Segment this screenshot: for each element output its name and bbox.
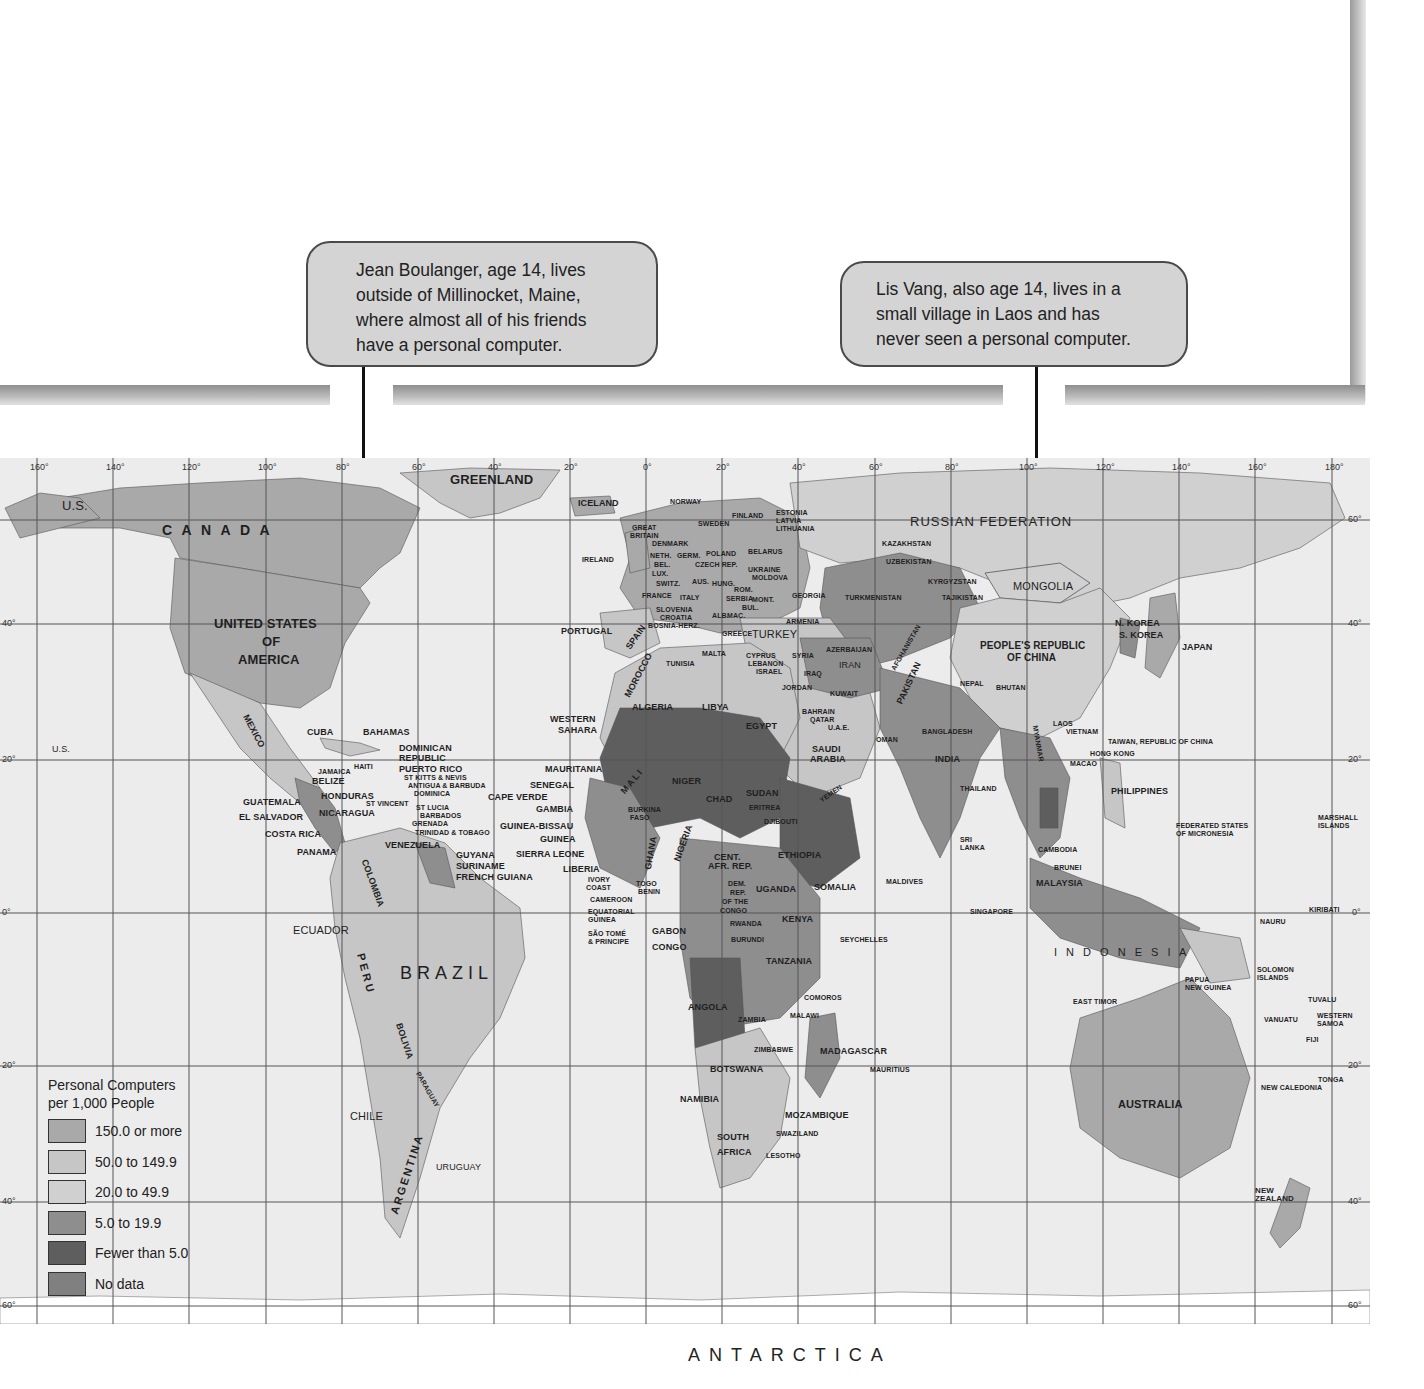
legend-label: 20.0 to 49.9	[95, 1184, 169, 1200]
label-kyrgyzstan: KYRGYZSTAN	[928, 578, 977, 585]
label-cyprus: CYPRUS	[746, 652, 776, 659]
label-cuba: CUBA	[307, 727, 333, 737]
label-eritrea: ERITREA	[749, 804, 780, 811]
label-micronesia-2: OF MICRONESIA	[1176, 830, 1234, 837]
longitude-label: 100°	[258, 462, 277, 472]
label-ecuador: ECUADOR	[293, 924, 349, 936]
label-hung: HUNG.	[712, 580, 735, 587]
label-iran: IRAN	[839, 660, 861, 670]
label-seychelles: SEYCHELLES	[840, 936, 888, 943]
label-ivory-1: IVORY	[588, 876, 610, 883]
longitude-label: 60°	[869, 462, 883, 472]
label-gabon: GABON	[652, 926, 686, 936]
latitude-label: 20°	[1348, 1060, 1362, 1070]
label-lesotho: LESOTHO	[766, 1152, 801, 1159]
label-suriname: SURINAME	[456, 861, 505, 871]
label-usa-line2: OF	[262, 634, 280, 649]
label-eq-guinea-1: EQUATORIAL	[588, 908, 635, 915]
label-hong-kong: HONG KONG	[1090, 750, 1135, 757]
label-south-africa-2: AFRICA	[717, 1147, 752, 1157]
label-chad: CHAD	[706, 794, 732, 804]
label-georgia: GEORGIA	[792, 592, 826, 599]
label-tuvalu: TUVALU	[1308, 996, 1336, 1003]
label-senegal: SENEGAL	[530, 780, 574, 790]
label-uruguay: URUGUAY	[436, 1162, 481, 1172]
label-sierra-leone: SIERRA LEONE	[516, 849, 584, 859]
longitude-label: 100°	[1019, 462, 1038, 472]
label-singapore: SINGAPORE	[970, 908, 1013, 915]
label-tajikistan: TAJIKISTAN	[942, 594, 983, 601]
label-png-1: PAPUA	[1185, 976, 1209, 983]
label-cameroon: CAMEROON	[590, 896, 632, 903]
label-st-kitts: ST KITTS & NEVIS	[404, 774, 467, 781]
longitude-label: 140°	[106, 462, 125, 472]
label-cambodia: CAMBODIA	[1038, 846, 1077, 853]
callout-line: have a personal computer.	[356, 333, 640, 358]
label-oman: OMAN	[876, 736, 898, 743]
longitude-label: 180°	[1325, 462, 1344, 472]
label-egypt: EGYPT	[746, 721, 777, 731]
label-france: FRANCE	[642, 592, 672, 599]
label-vietnam: VIETNAM	[1066, 728, 1098, 735]
label-nz-2: ZEALAND	[1255, 1194, 1294, 1203]
label-bahamas: BAHAMAS	[363, 727, 410, 737]
label-gambia: GAMBIA	[536, 804, 573, 814]
label-armenia: ARMENIA	[786, 618, 819, 625]
label-comoros: COMOROS	[804, 994, 842, 1001]
label-n-korea: N. KOREA	[1115, 618, 1160, 628]
label-malta: MALTA	[702, 650, 726, 657]
label-eq-guinea-2: GUINEA	[588, 916, 616, 923]
label-guinea: GUINEA	[540, 834, 576, 844]
latitude-label: 20°	[1348, 754, 1362, 764]
latitude-label: 0°	[2, 907, 11, 917]
region-cambodia	[1040, 788, 1058, 828]
label-libya: LIBYA	[702, 702, 729, 712]
label-bosnia: BOSNIA-HERZ.	[648, 622, 700, 629]
panel-frame-bottom-left	[0, 385, 330, 405]
label-finland: FINLAND	[732, 512, 763, 519]
callout-line: small village in Laos and has	[876, 302, 1170, 327]
label-grenada: GRENADA	[412, 820, 448, 827]
label-italy: ITALY	[680, 594, 700, 601]
label-angola: ANGOLA	[688, 1002, 728, 1012]
latitude-label: 40°	[2, 1196, 16, 1206]
label-slovenia: SLOVENIA	[656, 606, 693, 613]
region-south-america	[330, 828, 525, 1238]
label-venezuela: VENEZUELA	[385, 840, 440, 850]
label-saudi-2: ARABIA	[810, 754, 846, 764]
latitude-label: 20°	[2, 754, 16, 764]
label-micronesia-1: FEDERATED STATES	[1176, 822, 1248, 829]
label-uganda: UGANDA	[756, 884, 796, 894]
label-philippines: PHILIPPINES	[1111, 786, 1168, 796]
legend-item: 20.0 to 49.9	[48, 1177, 208, 1208]
label-great-britain-1: GREAT	[632, 524, 656, 531]
label-latvia: LATVIA	[776, 517, 801, 524]
longitude-label: 160°	[1248, 462, 1267, 472]
label-belarus: BELARUS	[748, 548, 783, 555]
latitude-label: 60°	[1348, 514, 1362, 524]
callout-line: outside of Millinocket, Maine,	[356, 283, 640, 308]
label-mont: MONT.	[752, 596, 774, 603]
panel-frame-bottom-middle	[393, 385, 1003, 405]
label-barbados: BARBADOS	[420, 812, 461, 819]
latitude-label: 20°	[2, 1060, 16, 1070]
label-mongolia: MONGOLIA	[1013, 580, 1073, 592]
label-burkina-1: BURKINA	[628, 806, 661, 813]
region-png	[1180, 928, 1250, 983]
label-namibia: NAMIBIA	[680, 1094, 719, 1104]
callout-jean-boulanger: Jean Boulanger, age 14, lives outside of…	[306, 241, 658, 367]
label-mauritania: MAURITANIA	[545, 764, 602, 774]
latitude-label: 40°	[1348, 618, 1362, 628]
legend: Personal Computers per 1,000 People 150.…	[48, 1076, 208, 1299]
label-haiti: HAITI	[354, 763, 373, 770]
label-japan: JAPAN	[1182, 642, 1212, 652]
label-zambia: ZAMBIA	[738, 1016, 766, 1023]
latitude-label: 60°	[2, 1300, 16, 1310]
label-malaysia: MALAYSIA	[1036, 878, 1083, 888]
label-ireland: IRELAND	[582, 556, 614, 563]
label-samoa-2: SAMOA	[1317, 1020, 1344, 1027]
label-nicaragua: NICARAGUA	[319, 808, 375, 818]
legend-label: No data	[95, 1276, 144, 1292]
label-turkey: TURKEY	[752, 628, 797, 640]
longitude-label: 20°	[564, 462, 578, 472]
